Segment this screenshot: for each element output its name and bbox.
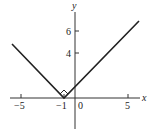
function-graph: x y −5 −1 0 5 6 4 [0,0,160,131]
x-tick-label-neg1: −1 [56,100,67,111]
x-tick-label-0: 0 [78,100,83,111]
x-tick-label-5: 5 [125,100,130,111]
y-tick-label-6: 6 [66,26,71,37]
right-angle-marker [60,90,68,94]
x-axis-label: x [141,92,147,103]
x-tick-label-neg5: −5 [14,100,25,111]
y-axis-label: y [71,0,77,11]
y-tick-label-4: 4 [66,48,71,59]
